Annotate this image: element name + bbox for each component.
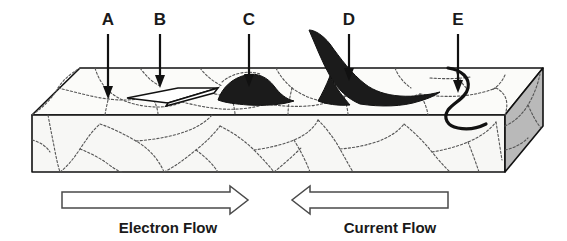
callout-label-a: A [102, 10, 114, 29]
callout-group-c[interactable]: C [243, 10, 255, 87]
callout-group-e[interactable]: E [452, 10, 463, 93]
diagram-canvas: Metal slab cross-section with labeled de… [0, 0, 567, 241]
callout-label-c: C [243, 10, 255, 29]
electron-flow-label: Electron Flow [119, 219, 218, 236]
electron-flow-group[interactable]: Electron Flow [62, 186, 248, 236]
current-flow-group[interactable]: Current Flow [292, 186, 448, 236]
current-flow-arrow-icon [292, 186, 448, 214]
electron-flow-arrow-icon [62, 186, 248, 214]
slab-front-face [32, 115, 505, 172]
current-flow-label: Current Flow [344, 219, 437, 236]
metal-slab-defect-diagram: Metal slab cross-section with labeled de… [0, 0, 567, 241]
callout-label-e: E [452, 10, 463, 29]
callout-label-b: B [154, 10, 166, 29]
callout-group-b[interactable]: B [154, 10, 166, 88]
callout-label-d: D [343, 10, 355, 29]
